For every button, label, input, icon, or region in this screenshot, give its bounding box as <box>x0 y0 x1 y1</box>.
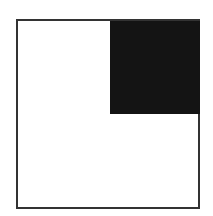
outer-square <box>16 19 200 209</box>
shaded-top-right-quadrant <box>110 21 200 114</box>
diagram-canvas <box>0 0 213 216</box>
